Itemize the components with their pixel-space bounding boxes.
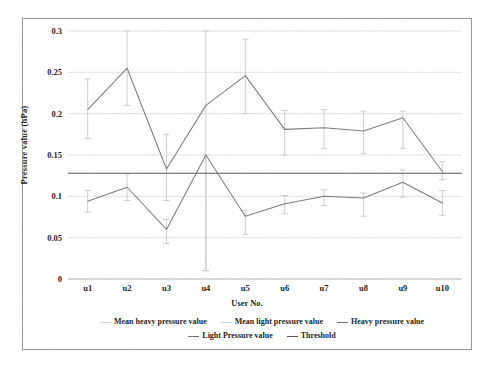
legend-row-2: Light Pressure valueThreshold <box>62 329 462 343</box>
x-tick-label-u1: u1 <box>68 283 108 293</box>
x-tick-label-u5: u5 <box>225 283 265 293</box>
legend-label: Light Pressure value <box>202 332 272 340</box>
x-tick-label-u10: u10 <box>422 283 462 293</box>
legend-label: Heavy pressure value <box>351 318 424 326</box>
legend-label: Mean light pressure value <box>235 318 323 326</box>
legend-entry-3[interactable]: Light Pressure value <box>188 332 272 340</box>
legend-swatch-icon <box>337 322 348 323</box>
legend-label: Threshold <box>301 332 336 340</box>
x-tick-label-u6: u6 <box>265 283 305 293</box>
legend-swatch-icon <box>100 322 111 323</box>
x-tick-label-u7: u7 <box>304 283 344 293</box>
chart-legend: Mean heavy pressure valueMean light pres… <box>62 315 462 343</box>
x-axis-title: User No. <box>0 298 494 308</box>
legend-entry-0[interactable]: Mean heavy pressure value <box>100 318 207 326</box>
legend-row-1: Mean heavy pressure valueMean light pres… <box>62 315 462 329</box>
x-tick-label-u4: u4 <box>186 283 226 293</box>
legend-label: Mean heavy pressure value <box>114 318 207 326</box>
x-tick-label-u8: u8 <box>344 283 384 293</box>
legend-swatch-icon <box>287 336 298 337</box>
x-axis-tick-labels: u1u2u3u4u5u6u7u8u9u10 <box>0 0 494 366</box>
x-tick-label-u9: u9 <box>383 283 423 293</box>
x-tick-label-u2: u2 <box>107 283 147 293</box>
legend-swatch-icon <box>188 336 199 337</box>
legend-entry-4[interactable]: Threshold <box>287 332 336 340</box>
legend-swatch-icon <box>221 322 232 323</box>
legend-entry-1[interactable]: Mean light pressure value <box>221 318 323 326</box>
legend-entry-2[interactable]: Heavy pressure value <box>337 318 424 326</box>
x-tick-label-u3: u3 <box>147 283 187 293</box>
